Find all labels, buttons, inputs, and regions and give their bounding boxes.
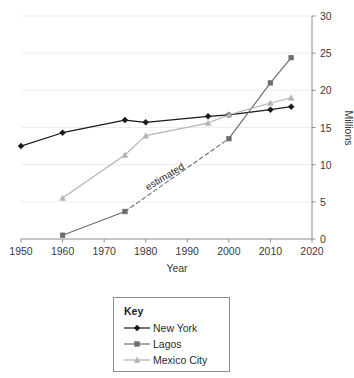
plot-area: 19501960197019801990200020102020 0510152… bbox=[0, 0, 354, 285]
estimated-annotation: estimated bbox=[143, 161, 186, 193]
legend-item-new-york[interactable]: New York bbox=[114, 320, 229, 336]
y-tick-label: 30 bbox=[320, 10, 332, 22]
series-lagos bbox=[60, 55, 293, 237]
data-point-marker bbox=[143, 119, 149, 125]
x-tick-label: 1960 bbox=[51, 245, 75, 257]
legend-marker-icon bbox=[123, 338, 151, 350]
x-tick-label: 2000 bbox=[217, 245, 241, 257]
series-new-york bbox=[18, 104, 294, 149]
legend-item-list: New YorkLagosMexico City bbox=[114, 320, 229, 368]
x-tick-label: 2020 bbox=[300, 245, 324, 257]
series-segment bbox=[63, 120, 125, 133]
series-segment bbox=[125, 136, 146, 155]
data-point-marker bbox=[122, 117, 128, 123]
series-segment bbox=[125, 120, 146, 122]
y-axis-title: Millions bbox=[343, 110, 354, 145]
x-tick-label: 1970 bbox=[92, 245, 116, 257]
data-point-marker bbox=[288, 104, 294, 110]
x-tick-label: 1990 bbox=[176, 245, 200, 257]
data-point-marker bbox=[289, 55, 294, 60]
series-segment bbox=[270, 58, 291, 83]
data-point-marker bbox=[60, 130, 66, 136]
legend-marker-icon bbox=[123, 354, 151, 366]
line-chart-figure: 19501960197019801990200020102020 0510152… bbox=[0, 0, 354, 378]
x-tick-label: 2010 bbox=[259, 245, 283, 257]
data-point-marker bbox=[134, 325, 140, 331]
data-point-marker bbox=[268, 81, 273, 86]
legend-marker-icon bbox=[123, 322, 151, 334]
x-tick-label: 1980 bbox=[134, 245, 158, 257]
chart-svg: 19501960197019801990200020102020 0510152… bbox=[0, 0, 354, 285]
data-point-marker bbox=[135, 342, 140, 347]
data-point-marker bbox=[226, 136, 231, 141]
x-tick-labels-group: 19501960197019801990200020102020 bbox=[9, 245, 324, 257]
y-tick-label: 25 bbox=[320, 47, 332, 59]
y-tick-label: 0 bbox=[320, 233, 326, 245]
series-segment bbox=[63, 155, 125, 198]
data-series-group bbox=[18, 55, 294, 237]
series-segment bbox=[270, 107, 291, 110]
data-point-marker bbox=[288, 95, 294, 100]
series-segment bbox=[21, 133, 63, 146]
data-point-marker bbox=[18, 143, 24, 149]
x-tick-label: 1950 bbox=[9, 245, 33, 257]
data-point-marker bbox=[123, 209, 128, 214]
y-tick-marks-group bbox=[312, 16, 316, 239]
legend-item-label: Lagos bbox=[151, 338, 182, 350]
data-point-marker bbox=[60, 233, 65, 238]
legend-item-mexico-city[interactable]: Mexico City bbox=[114, 352, 229, 368]
legend-item-lagos[interactable]: Lagos bbox=[114, 336, 229, 352]
legend-item-label: New York bbox=[151, 322, 197, 334]
data-point-marker bbox=[205, 113, 211, 119]
x-tick-marks-group bbox=[21, 239, 312, 243]
y-tick-label: 20 bbox=[320, 84, 332, 96]
series-segment bbox=[146, 123, 208, 136]
series-segment bbox=[63, 211, 125, 235]
legend-title: Key bbox=[124, 305, 229, 317]
legend: Key New YorkLagosMexico City bbox=[113, 297, 230, 372]
y-tick-labels-group: 051015202530 bbox=[320, 10, 332, 245]
data-point-marker bbox=[267, 107, 273, 113]
legend-item-label: Mexico City bbox=[151, 354, 207, 366]
annotations-group: estimated bbox=[143, 161, 186, 193]
x-axis-title: Year bbox=[166, 262, 188, 274]
y-tick-label: 10 bbox=[320, 159, 332, 171]
series-segment bbox=[146, 116, 208, 122]
y-tick-label: 15 bbox=[320, 122, 332, 134]
series-segment bbox=[229, 103, 271, 115]
y-tick-label: 5 bbox=[320, 196, 326, 208]
